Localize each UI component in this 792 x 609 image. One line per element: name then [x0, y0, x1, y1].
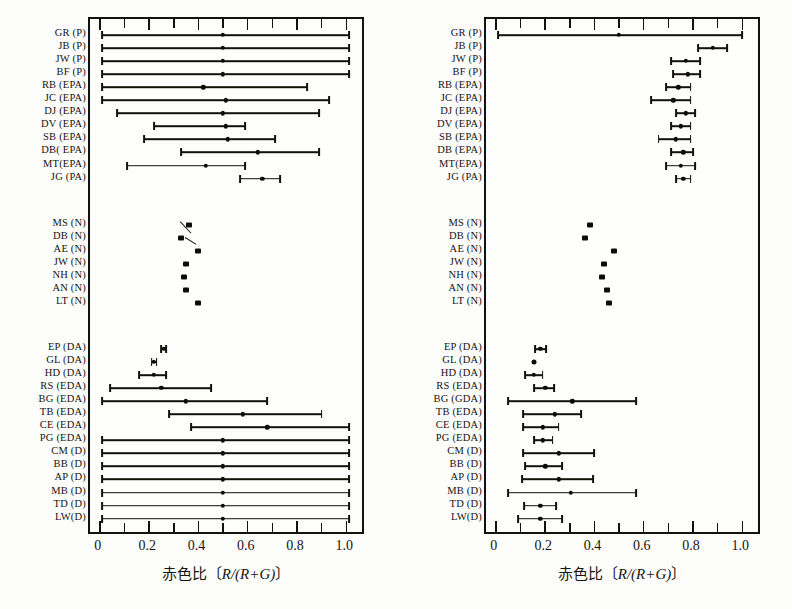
interval-cap	[650, 96, 652, 104]
x-tick-labels-right: 00.20.40.60.81.0	[484, 538, 760, 556]
interval-cap	[545, 345, 547, 353]
axis-tick-major	[495, 19, 497, 30]
interval-bar	[102, 466, 348, 468]
row-label: EP (DA)	[8, 342, 86, 352]
interval-cap	[143, 135, 145, 143]
interval-bar	[102, 453, 348, 455]
data-point	[195, 300, 201, 305]
interval-cap	[101, 31, 103, 39]
interval-center-point	[543, 464, 547, 468]
axis-tick-minor	[222, 19, 224, 28]
interval-cap	[635, 489, 637, 497]
interval-series-right	[486, 19, 758, 532]
axis-tick-minor	[173, 19, 175, 28]
row-label: PG (EDA)	[404, 433, 482, 443]
interval-center-point	[204, 163, 208, 167]
interval-cap	[741, 31, 743, 39]
interval-cap	[101, 462, 103, 470]
plot-area-right	[484, 17, 760, 534]
interval-cap	[180, 148, 182, 156]
data-point	[611, 248, 617, 253]
data-point	[582, 235, 588, 240]
axis-tick-minor	[272, 19, 274, 28]
data-point	[181, 274, 187, 279]
interval-cap	[156, 358, 158, 366]
axis-tick-minor	[222, 523, 224, 532]
interval-cap	[348, 449, 350, 457]
interval-bar	[102, 47, 348, 49]
interval-bar	[102, 505, 348, 507]
interval-cap	[690, 122, 692, 130]
interval-center-point	[671, 98, 675, 102]
row-label: LW(D)	[404, 512, 482, 522]
axis-tick-minor	[124, 523, 126, 532]
interval-center-point	[221, 451, 225, 455]
interval-cap	[274, 135, 276, 143]
interval-bar	[102, 34, 348, 36]
data-point	[178, 235, 184, 240]
interval-cap	[190, 423, 192, 431]
interval-center-point	[532, 373, 536, 377]
row-label: JC (EPA)	[8, 93, 86, 103]
interval-cap	[210, 384, 212, 392]
row-label: RB (EPA)	[8, 80, 86, 90]
axis-tick-major	[643, 19, 645, 30]
row-label: NH (N)	[8, 270, 86, 280]
axis-tick-major	[692, 521, 694, 532]
interval-cap	[348, 423, 350, 431]
interval-cap	[552, 436, 554, 444]
interval-center-point	[538, 347, 542, 351]
x-tick-label: 0.2	[138, 538, 156, 554]
interval-center-point	[681, 176, 685, 180]
row-label: LT (N)	[8, 296, 86, 306]
interval-cap	[321, 410, 323, 418]
interval-cap	[165, 345, 167, 353]
interval-cap	[101, 83, 103, 91]
x-axis-label-suffix: 〕	[275, 566, 290, 582]
interval-center-point	[260, 176, 264, 180]
interval-cap	[267, 397, 269, 405]
interval-cap	[318, 109, 320, 117]
data-point	[599, 274, 605, 279]
row-label: JW (N)	[8, 257, 86, 267]
interval-cap	[522, 449, 524, 457]
x-axis-label-right: 赤色比〔R/(R+G)〕	[484, 562, 760, 583]
row-label: MT(EPA)	[404, 159, 482, 169]
interval-cap	[101, 502, 103, 510]
data-point	[587, 222, 593, 227]
interval-bar	[102, 479, 348, 481]
figure-root: GR (P)JB (P)JW (P)BF (P)RB (EPA)JC (EPA)…	[0, 0, 792, 609]
chart-panel-right: GR (P)JB (P)JW (P)BF (P)RB (EPA)JC (EPA)…	[396, 0, 792, 609]
row-label: DV (EPA)	[404, 119, 482, 129]
interval-center-point	[711, 46, 715, 50]
axis-tick-minor	[668, 19, 670, 28]
interval-center-point	[221, 33, 225, 37]
axis-tick-major	[742, 521, 744, 532]
x-tick-label: 0.8	[286, 538, 304, 554]
row-label: BG (GDA)	[404, 394, 482, 404]
x-tick-label: 0	[94, 538, 101, 554]
interval-cap	[116, 109, 118, 117]
data-point	[183, 287, 189, 292]
interval-cap	[670, 57, 672, 65]
row-label: JG (PA)	[8, 172, 86, 182]
interval-cap	[699, 57, 701, 65]
interval-cap	[675, 175, 677, 183]
x-tick-labels-left: 00.20.40.60.81.0	[88, 538, 364, 556]
interval-cap	[348, 475, 350, 483]
row-label: JW (N)	[404, 257, 482, 267]
axis-tick-major	[148, 521, 150, 532]
interval-cap	[507, 397, 509, 405]
x-tick-label: 1.0	[336, 538, 354, 554]
interval-center-point	[556, 477, 560, 481]
plot-area-left	[88, 17, 364, 534]
interval-cap	[101, 475, 103, 483]
interval-cap	[101, 70, 103, 78]
interval-center-point	[676, 85, 680, 89]
scan-artifact-stroke	[185, 237, 197, 245]
axis-tick-minor	[717, 19, 719, 28]
interval-bar	[102, 492, 348, 494]
axis-tick-major	[544, 521, 546, 532]
axis-tick-minor	[272, 523, 274, 532]
interval-bar	[181, 152, 319, 154]
